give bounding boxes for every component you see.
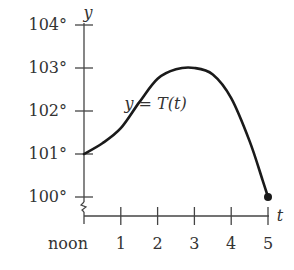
y-axis-label: y [82, 3, 93, 22]
curve-label: y = T(t) [123, 94, 186, 113]
chart: 100°101°102°103°104°noon12345yty = T(t) [0, 0, 294, 270]
y-tick-label: 104° [28, 15, 67, 34]
x-tick-label: noon [48, 234, 88, 253]
temperature-curve [84, 68, 268, 197]
y-tick-label: 100° [28, 187, 67, 206]
x-tick-label: 2 [153, 234, 163, 253]
y-tick-label: 103° [28, 58, 67, 77]
y-axis-break-icon [81, 202, 86, 212]
y-tick-label: 101° [28, 144, 67, 163]
x-tick-label: 5 [263, 234, 273, 253]
x-axis-label: t [277, 206, 284, 225]
x-tick-label: 4 [226, 234, 236, 253]
x-tick-label: 1 [116, 234, 126, 253]
endpoint-marker [264, 193, 272, 201]
x-tick-label: 3 [189, 234, 199, 253]
y-tick-label: 102° [28, 101, 67, 120]
